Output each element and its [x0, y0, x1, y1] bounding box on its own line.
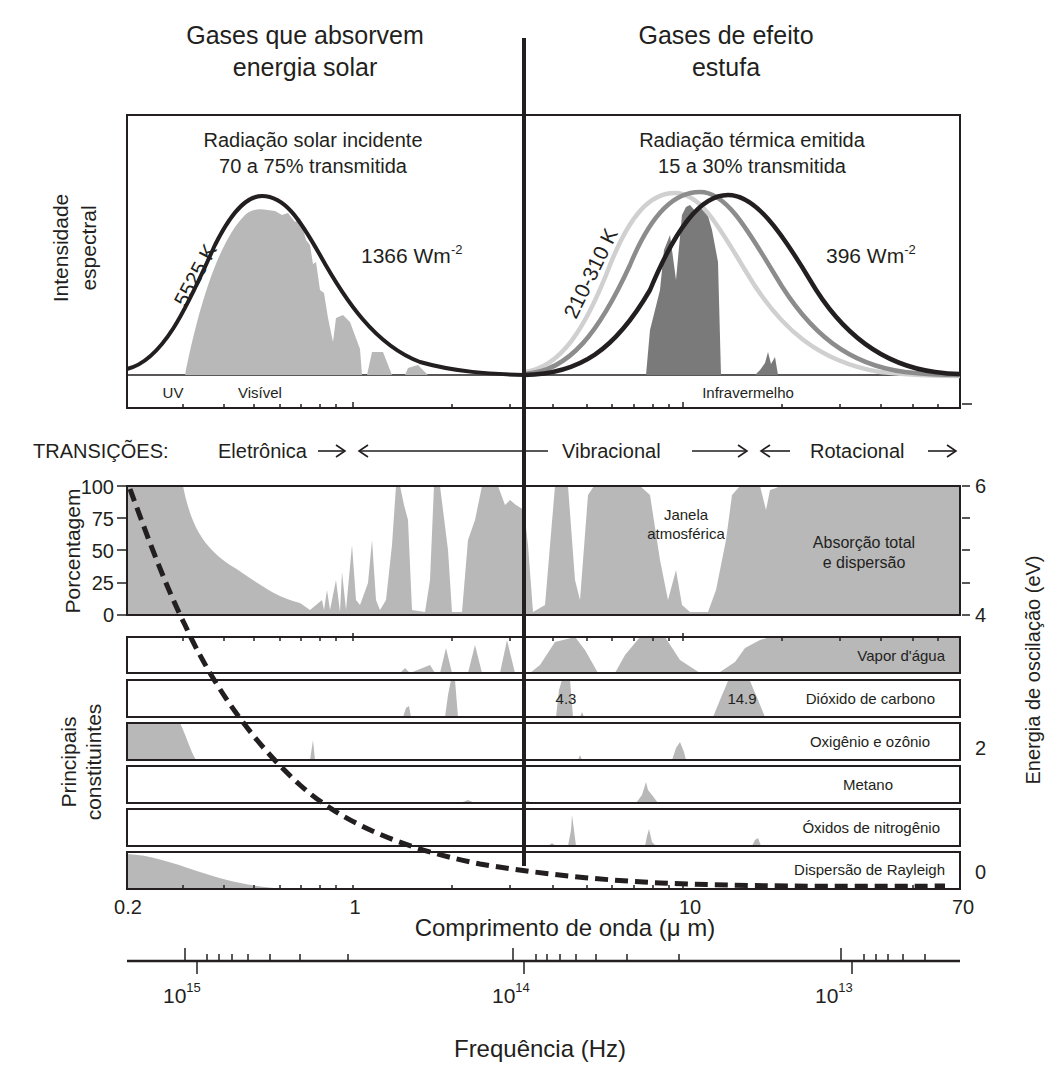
frequency-axis: 1015 1014 1013 Frequência (Hz): [127, 948, 960, 1062]
transition-electronic: Eletrônica: [218, 440, 308, 462]
spectrum-panel: Intensidade espectral Radiação solar inc…: [49, 115, 972, 408]
energy-tick-0: 0: [975, 861, 986, 883]
freq-tick-1e14: 1014: [492, 980, 530, 1007]
band-label-uv: UV: [163, 384, 184, 401]
oxygen-ozone-area: [127, 723, 686, 760]
spectrum-y-label-line1: Intensidade: [49, 194, 72, 303]
transitions-row: TRANSIÇÕES: Eletrônica Vibracional Rotac…: [33, 439, 956, 462]
thermal-title-line1: Radiação térmica emitida: [639, 129, 866, 151]
energy-tick-4: 4: [975, 604, 986, 626]
wavelength-tick-70: 70: [952, 896, 974, 918]
freq-tick-1e13-base: 10: [815, 984, 838, 1007]
constituents-y-label-line1: Principais: [57, 716, 80, 807]
constituents-y-label-line2: constituintes: [82, 704, 105, 821]
freq-tick-1e15: 1015: [163, 980, 201, 1007]
freq-tick-1e13-exp: 13: [838, 980, 852, 995]
thermal-flux-label: 396 Wm-2: [826, 242, 916, 267]
strip-label-water-vapor: Vapor d'água: [857, 647, 945, 664]
percent-tick-100: 100: [81, 476, 114, 498]
transitions-label: TRANSIÇÕES:: [33, 439, 169, 462]
nitrogen-oxides-area: [548, 815, 761, 846]
right-title-line1: Gases de efeito: [638, 21, 813, 49]
wavelength-axis: 0.2 1 10 70 Comprimento de onda (μ m): [114, 896, 974, 941]
energy-tick-6: 6: [975, 475, 986, 497]
left-title-line1: Gases que absorvem: [186, 21, 424, 49]
wavelength-tick-0-2: 0.2: [114, 896, 142, 918]
percent-tick-0: 0: [103, 604, 114, 626]
energy-tick-2: 2: [975, 737, 986, 759]
percent-tick-75: 75: [92, 508, 114, 530]
solar-flux-exponent: -2: [451, 242, 463, 257]
constituent-strips: Vapor d'água 4.3 14.9 Dióxido de carbono…: [57, 633, 960, 889]
methane-area: [460, 782, 658, 803]
right-title-line2: estufa: [692, 53, 760, 81]
total-absorption-label-line2: e dispersão: [823, 554, 906, 571]
freq-tick-1e14-base: 10: [492, 984, 515, 1007]
total-absorption-label-line1: Absorção total: [813, 534, 915, 551]
solar-flux-label: 1366 Wm-2: [361, 242, 462, 267]
wavelength-axis-title: Comprimento de onda (μ m): [415, 914, 716, 941]
strip-label-co2: Dióxido de carbono: [806, 690, 935, 707]
thermal-transmitted-area: [646, 205, 721, 375]
solar-title-line1: Radiação solar incidente: [203, 129, 422, 151]
freq-tick-1e15-base: 10: [163, 984, 186, 1007]
percent-tick-25: 25: [92, 572, 114, 594]
atmospheric-absorption-figure: Gases que absorvem energia solar Gases d…: [0, 0, 1057, 1077]
co2-peak-label-14-9: 14.9: [727, 690, 756, 707]
solar-flux-value: 1366 Wm: [361, 244, 451, 267]
water-vapor-area: [127, 637, 960, 673]
energy-axis: 6 4 2 0 Energia de oscilação (eV): [975, 475, 1044, 883]
wavelength-tick-1: 1: [349, 896, 360, 918]
spectrum-y-label-line2: espectral: [77, 205, 100, 290]
strip-label-rayleigh: Dispersão de Rayleigh: [794, 861, 945, 878]
frequency-axis-title: Frequência (Hz): [454, 1035, 626, 1062]
band-label-infrared: Infravermelho: [702, 384, 794, 401]
solar-title-line2: 70 a 75% transmitida: [219, 155, 408, 177]
strip-label-methane: Metano: [843, 776, 893, 793]
energy-axis-label: Energia de oscilação (eV): [1022, 555, 1044, 784]
strip-label-nitrogen-oxides: Óxidos de nitrogênio: [802, 819, 940, 836]
absorption-panel: Porcentagem 100 75 50 25 0 Janela atmosf…: [61, 476, 970, 626]
freq-tick-1e15-exp: 15: [186, 980, 200, 995]
strip-label-oxygen-ozone: Oxigênio e ozônio: [810, 733, 930, 750]
thermal-flux-exponent: -2: [904, 242, 916, 257]
transition-vibrational: Vibracional: [562, 440, 661, 462]
band-label-visible: Visível: [238, 384, 282, 401]
thermal-flux-value: 396 Wm: [826, 244, 904, 267]
rayleigh-area: [127, 854, 290, 889]
transition-rotational: Rotacional: [810, 440, 905, 462]
thermal-small-peaks: [755, 352, 778, 375]
freq-tick-1e13: 1013: [815, 980, 853, 1007]
freq-tick-1e14-exp: 14: [515, 980, 529, 995]
thermal-title-line2: 15 a 30% transmitida: [658, 155, 847, 177]
left-title-line2: energia solar: [233, 53, 378, 81]
percent-tick-50: 50: [92, 540, 114, 562]
co2-peak-label-4-3: 4.3: [556, 690, 577, 707]
window-label-line1: Janela: [664, 506, 709, 523]
window-label-line2: atmosférica: [647, 525, 725, 542]
absorption-y-label: Porcentagem: [61, 489, 84, 614]
